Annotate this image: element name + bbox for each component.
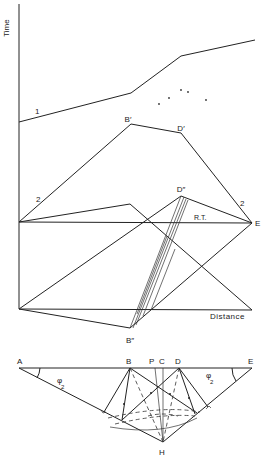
- travel-time-curve-1: [19, 40, 255, 122]
- time-distance-graph: Time Distance 1 B′ D′ 2 2 R.T. E D″ B″: [2, 4, 260, 345]
- reciprocal-time-line: [19, 222, 252, 223]
- seismic-refraction-diagram: Time Distance 1 B′ D′ 2 2 R.T. E D″ B″: [0, 0, 268, 465]
- point-a: A: [17, 357, 23, 366]
- refractor-construction: A B P C D E H φ 2 φ 2: [17, 357, 253, 457]
- point-e: E: [248, 357, 253, 366]
- distance-axis: [19, 309, 252, 310]
- ray-d-perp: [179, 368, 208, 407]
- curve-2-label-left: 2: [36, 195, 41, 204]
- parallel-construction-lines: [130, 196, 188, 328]
- ray-a-h: [19, 368, 163, 442]
- ray-arrow-dots: [123, 392, 190, 405]
- point-d: D: [175, 357, 181, 366]
- angle-arc-right: [232, 368, 236, 381]
- curve-1-label: 1: [35, 107, 40, 116]
- point-d-double-prime: D″: [177, 185, 186, 194]
- angle-arc-left: [37, 368, 40, 378]
- angle-left-subscript: 2: [61, 384, 65, 390]
- angle-right-subscript: 2: [210, 379, 214, 385]
- time-axis-label: Time: [2, 19, 11, 37]
- point-e-upper: E: [255, 219, 260, 228]
- right-angle-mark-right: [206, 406, 211, 409]
- distance-axis-label: Distance: [210, 312, 245, 321]
- point-p: P: [149, 357, 154, 366]
- delay-line-a: [19, 204, 252, 310]
- ray-b-1: [122, 368, 130, 420]
- line-p-h: [155, 368, 163, 442]
- curve-2-label-right: 2: [240, 199, 245, 208]
- point-b-prime: B′: [125, 115, 132, 124]
- point-d-prime: D′: [177, 124, 185, 133]
- point-b-double-prime: B″: [126, 336, 134, 345]
- ray-d-1: [179, 368, 195, 414]
- observation-points: [158, 89, 207, 105]
- point-b: B: [126, 357, 131, 366]
- point-h: H: [159, 448, 165, 457]
- point-c: C: [159, 357, 165, 366]
- rt-label: R.T.: [194, 214, 207, 221]
- ray-b-perp: [104, 368, 130, 412]
